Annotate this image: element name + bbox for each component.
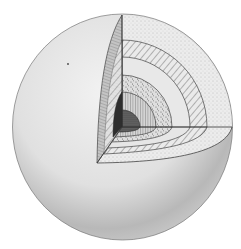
figure-canvas (0, 0, 241, 249)
sphere-cutaway-diagram (0, 0, 241, 249)
speck-mark (67, 63, 69, 65)
